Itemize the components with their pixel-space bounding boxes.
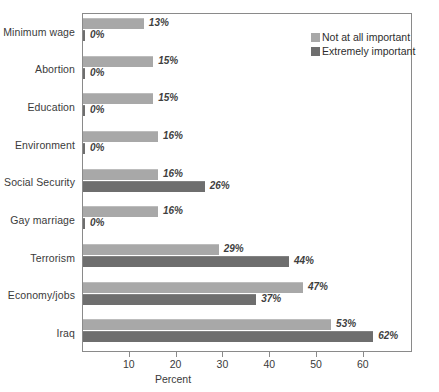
bar-1[interactable] bbox=[83, 256, 289, 267]
category-label: Economy/jobs bbox=[8, 289, 75, 301]
legend-item[interactable]: Extremely important bbox=[311, 45, 415, 57]
bar-value-label: 16% bbox=[163, 205, 183, 216]
bar-0[interactable] bbox=[83, 206, 158, 217]
bar-0[interactable] bbox=[83, 131, 158, 142]
category-rows: Minimum wage13%0%Abortion15%0%Education1… bbox=[0, 13, 439, 352]
bar-chart: Minimum wage13%0%Abortion15%0%Education1… bbox=[0, 0, 439, 392]
category-label: Terrorism bbox=[30, 252, 75, 264]
x-axis-tick bbox=[363, 352, 364, 357]
category-row: Environment16%0% bbox=[0, 126, 439, 164]
category-row: Iraq53%62% bbox=[0, 314, 439, 352]
bar-value-label: 47% bbox=[308, 281, 328, 292]
bar-value-label: 62% bbox=[378, 330, 398, 341]
bar-1[interactable] bbox=[83, 68, 85, 79]
category-label: Gay marriage bbox=[10, 214, 75, 226]
bar-1[interactable] bbox=[83, 105, 85, 116]
x-axis-tick bbox=[176, 352, 177, 357]
bar-value-label: 0% bbox=[90, 67, 104, 78]
bar-value-label: 26% bbox=[210, 180, 230, 191]
legend-swatch-icon bbox=[311, 47, 320, 56]
bar-1[interactable] bbox=[83, 181, 205, 192]
bar-0[interactable] bbox=[83, 56, 153, 67]
bar-value-label: 15% bbox=[158, 92, 178, 103]
bar-value-label: 0% bbox=[90, 104, 104, 115]
legend-swatch-icon bbox=[311, 33, 320, 42]
x-axis-tick-label: 10 bbox=[123, 358, 135, 370]
x-axis-title: Percent bbox=[8, 373, 338, 385]
bar-0[interactable] bbox=[83, 93, 153, 104]
x-axis-tick bbox=[129, 352, 130, 357]
category-row: Economy/jobs47%37% bbox=[0, 277, 439, 315]
bar-1[interactable] bbox=[83, 143, 85, 154]
bar-value-label: 29% bbox=[224, 243, 244, 254]
category-row: Gay marriage16%0% bbox=[0, 201, 439, 239]
bar-1[interactable] bbox=[83, 218, 85, 229]
bar-0[interactable] bbox=[83, 282, 303, 293]
x-axis-tick-label: 30 bbox=[217, 358, 229, 370]
x-axis-tick bbox=[269, 352, 270, 357]
x-axis-tick-label: 40 bbox=[263, 358, 275, 370]
bar-0[interactable] bbox=[83, 169, 158, 180]
category-row: Education15%0% bbox=[0, 88, 439, 126]
bar-0[interactable] bbox=[83, 18, 144, 29]
x-axis-tick-label: 50 bbox=[310, 358, 322, 370]
category-row: Social Security16%26% bbox=[0, 164, 439, 202]
category-label: Minimum wage bbox=[3, 26, 75, 38]
bar-1[interactable] bbox=[83, 331, 373, 342]
bar-1[interactable] bbox=[83, 294, 256, 305]
x-axis-tick-label: 20 bbox=[170, 358, 182, 370]
bar-value-label: 44% bbox=[294, 255, 314, 266]
bar-value-label: 16% bbox=[163, 168, 183, 179]
bar-1[interactable] bbox=[83, 30, 85, 41]
category-label: Education bbox=[27, 101, 75, 113]
category-label: Iraq bbox=[57, 327, 76, 339]
bar-value-label: 53% bbox=[336, 318, 356, 329]
bar-value-label: 0% bbox=[90, 142, 104, 153]
legend-label: Extremely important bbox=[322, 45, 415, 57]
bar-value-label: 37% bbox=[261, 293, 281, 304]
bar-0[interactable] bbox=[83, 319, 331, 330]
bar-value-label: 0% bbox=[90, 29, 104, 40]
x-axis-tick-label: 60 bbox=[357, 358, 369, 370]
x-axis: Percent 102030405060 bbox=[82, 352, 412, 392]
chart-legend: Not at all importantExtremely important bbox=[311, 31, 415, 59]
x-axis-tick bbox=[222, 352, 223, 357]
category-label: Environment bbox=[15, 139, 75, 151]
category-label: Social Security bbox=[4, 176, 75, 188]
x-axis-tick bbox=[316, 352, 317, 357]
bar-value-label: 13% bbox=[149, 17, 169, 28]
bar-value-label: 15% bbox=[158, 55, 178, 66]
bar-value-label: 16% bbox=[163, 130, 183, 141]
bar-value-label: 0% bbox=[90, 217, 104, 228]
category-row: Terrorism29%44% bbox=[0, 239, 439, 277]
category-label: Abortion bbox=[35, 63, 75, 75]
bar-0[interactable] bbox=[83, 244, 219, 255]
legend-label: Not at all important bbox=[322, 31, 410, 43]
legend-item[interactable]: Not at all important bbox=[311, 31, 415, 43]
